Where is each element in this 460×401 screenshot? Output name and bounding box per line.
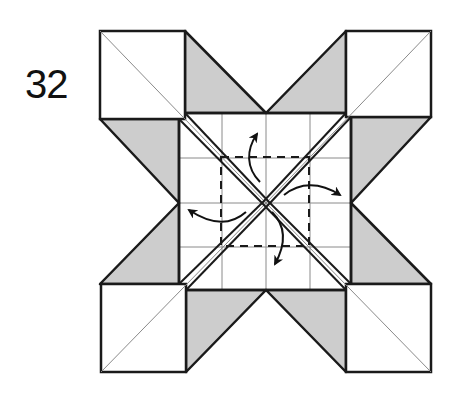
flap-top-left: [185, 31, 266, 113]
flap-bottom-left: [186, 290, 266, 372]
flap-right-lower: [351, 203, 431, 284]
flap-left-upper: [100, 119, 179, 203]
origami-diagram: [0, 0, 460, 401]
flap-left-lower: [100, 203, 179, 284]
flap-top-right: [266, 31, 346, 113]
flap-right-upper: [351, 117, 431, 203]
flap-bottom-right: [266, 290, 346, 372]
